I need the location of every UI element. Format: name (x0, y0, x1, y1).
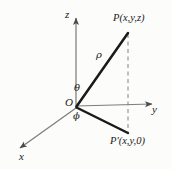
rho-label: ρ (96, 50, 102, 60)
spherical-coordinates-figure: z y x O ρ θ ϕ P(x,y,z) P′(x,y,0) (0, 0, 172, 169)
x-axis-label: x (19, 151, 24, 162)
y-axis-line (76, 104, 152, 106)
point-p-label: P(x,y,z) (113, 13, 145, 24)
origin-to-p-prime-line (77, 108, 129, 134)
coordinate-axes-drawing (0, 0, 172, 169)
theta-angle-label: θ (74, 83, 80, 93)
phi-angle-label: ϕ (73, 111, 80, 121)
point-p-prime-label: P′(x,y,0) (110, 136, 145, 147)
rho-ray-line (77, 33, 129, 107)
z-axis-label: z (65, 9, 69, 20)
x-axis-line (20, 108, 76, 148)
y-axis-label: y (152, 104, 157, 115)
origin-label: O (65, 97, 73, 108)
